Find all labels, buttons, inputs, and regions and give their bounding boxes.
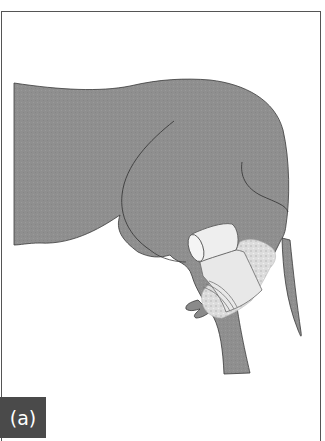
- tail-shape: [282, 238, 301, 336]
- body-shape: [14, 79, 289, 374]
- panel-label: (a): [10, 407, 36, 429]
- panel-label-box: (a): [0, 397, 46, 438]
